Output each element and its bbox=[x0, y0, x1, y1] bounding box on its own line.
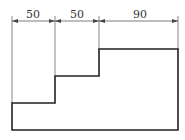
drawing-canvas: 50 50 90 bbox=[0, 0, 185, 140]
dimension-label-1: 50 bbox=[26, 8, 40, 21]
extension-lines bbox=[12, 16, 178, 103]
step-profile-drawing: 50 50 90 bbox=[0, 0, 185, 140]
dimension-label-2: 50 bbox=[70, 8, 84, 21]
dimension-label-3: 90 bbox=[133, 8, 147, 21]
step-profile-outline bbox=[12, 49, 178, 130]
